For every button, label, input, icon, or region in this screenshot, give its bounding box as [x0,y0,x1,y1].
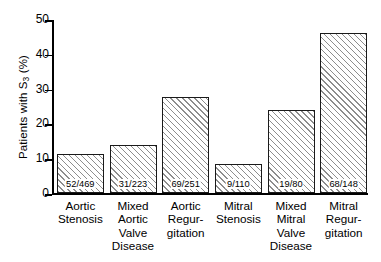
bar: 69/251 [162,97,209,193]
y-axis-title-prefix: Patients with S [17,81,29,159]
plot-area: 01020304050 52/46931/22369/2519/11019/80… [52,20,368,194]
y-axis-tick-label: 0 [42,186,49,200]
y-axis-title: Patients with S3 (%) [17,22,31,192]
bar-value-label: 19/80 [278,179,303,189]
bar-value-label: 52/469 [65,179,95,189]
y-axis-tick-label: 30 [36,82,49,96]
bar-value-label: 31/223 [118,179,148,189]
bar: 31/223 [110,145,157,193]
x-axis-line [52,193,368,195]
y-axis-title-suffix: (%) [17,55,29,76]
bar-value-label: 9/110 [226,179,251,189]
bar: 52/469 [57,154,104,193]
bar-value-label: 68/148 [328,179,358,189]
y-axis-title-subscript: 3 [21,77,31,82]
y-axis-tick-label: 20 [36,116,49,130]
x-axis-category-label: Mitral Regur- gitation [311,199,376,239]
y-axis-line [52,20,54,194]
y-axis-tick-label: 50 [36,12,49,26]
y-axis-tick-label: 40 [36,47,49,61]
y-axis-tick-label: 10 [36,151,49,165]
bar: 68/148 [320,33,367,193]
bar-value-label: 69/251 [170,179,200,189]
bar: 9/110 [215,164,262,193]
chart-figure: Patients with S3 (%) 01020304050 52/4693… [0,0,381,262]
bar: 19/80 [268,110,315,193]
